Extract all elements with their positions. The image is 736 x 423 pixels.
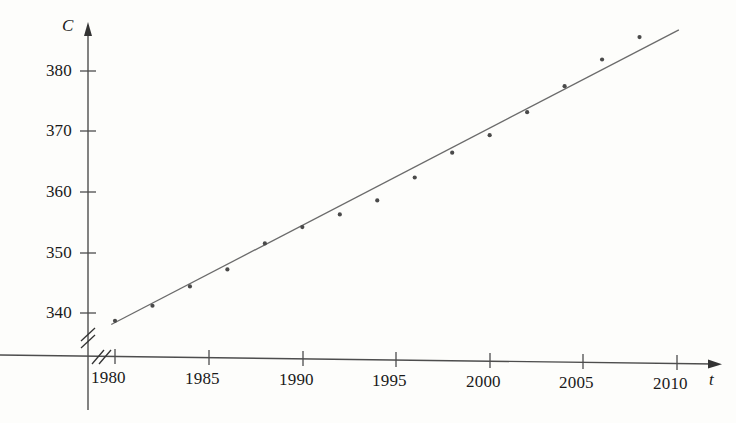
co2-scatter-figure: 380 370 360 350 340 1980 1985 1990 1995 … <box>0 0 736 423</box>
data-point <box>413 175 417 179</box>
y-tick-label-350: 350 <box>26 243 72 263</box>
data-point <box>637 35 641 39</box>
x-tick-label-2005: 2005 <box>559 373 594 393</box>
x-axis-ticks <box>115 349 677 370</box>
x-tick-label-1985: 1985 <box>185 369 220 389</box>
x-axis-label: t <box>709 370 714 390</box>
data-point <box>225 267 229 271</box>
chart-canvas <box>0 0 736 423</box>
data-point <box>600 57 604 61</box>
y-axis-label: C <box>62 16 73 36</box>
x-tick-label-2010: 2010 <box>653 374 688 394</box>
y-tick-label-380: 380 <box>26 61 72 81</box>
data-point <box>150 304 154 308</box>
x-tick-label-1995: 1995 <box>372 371 407 391</box>
data-point <box>488 133 492 137</box>
x-axis-line <box>0 355 714 364</box>
x-tick-label-2000: 2000 <box>466 372 501 392</box>
y-tick-label-370: 370 <box>26 121 72 141</box>
scatter-points <box>113 35 642 323</box>
data-point <box>563 84 567 88</box>
y-axis-arrow-icon <box>84 22 92 36</box>
regression-line <box>111 30 679 325</box>
data-point <box>263 241 267 245</box>
data-point <box>525 110 529 114</box>
data-point <box>338 212 342 216</box>
data-point <box>113 319 117 323</box>
data-point <box>375 198 379 202</box>
y-tick-label-360: 360 <box>26 182 72 202</box>
y-tick-label-340: 340 <box>26 303 72 323</box>
data-point <box>188 284 192 288</box>
data-point <box>300 225 304 229</box>
data-point <box>450 151 454 155</box>
x-axis-arrow-icon <box>708 360 722 369</box>
x-tick-label-1980: 1980 <box>91 368 126 388</box>
x-tick-label-1990: 1990 <box>279 370 314 390</box>
